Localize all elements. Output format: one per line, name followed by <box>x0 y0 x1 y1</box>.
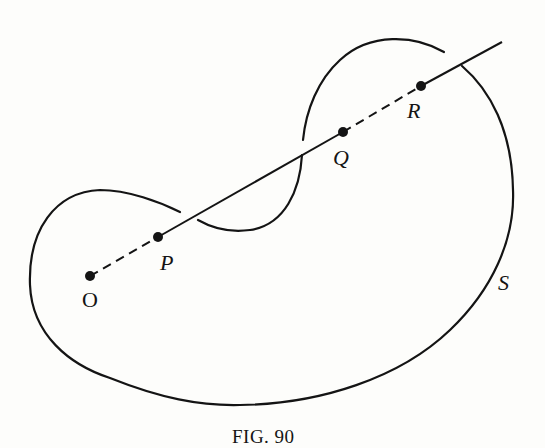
segment-r-beyond <box>421 42 502 86</box>
figure-caption: FIG. 90 <box>232 426 295 447</box>
label-o: O <box>82 287 98 312</box>
curve-s-outer <box>30 66 513 405</box>
ray-oprq <box>90 42 502 276</box>
point-o <box>85 271 95 281</box>
segment-p-q <box>158 132 343 237</box>
label-s: S <box>498 270 509 295</box>
point-r <box>416 81 426 91</box>
figure-90: O P Q R S FIG. 90 <box>0 0 545 448</box>
segment-o-p <box>90 237 158 276</box>
label-q: Q <box>333 145 349 170</box>
curve-s-indent <box>198 155 302 231</box>
label-p: P <box>159 250 173 275</box>
point-p <box>153 232 163 242</box>
point-q <box>338 127 348 137</box>
curve-s <box>30 39 513 405</box>
label-r: R <box>406 98 421 123</box>
